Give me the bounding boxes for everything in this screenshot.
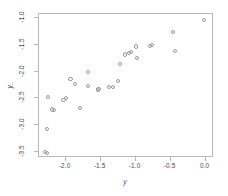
y-tick-mark (34, 71, 38, 72)
data-point (118, 62, 122, 66)
data-point (96, 87, 100, 91)
y-tick-mark (34, 97, 38, 98)
x-tick-label: -2.0 (59, 162, 70, 169)
data-point (202, 18, 206, 22)
plot-frame (38, 13, 213, 157)
data-point (52, 108, 56, 112)
y-tick-mark (34, 44, 38, 45)
y-tick-mark (34, 17, 38, 18)
data-point (116, 79, 120, 83)
y-tick-label: -1.0 (18, 12, 25, 23)
data-point (64, 96, 68, 100)
x-tick-mark (135, 157, 136, 161)
data-point (111, 85, 115, 89)
scatter-plot-figure: -2.0-1.5-1.0-0.50.0 -1.0-1.5-2.0-2.5-3.0… (0, 0, 228, 196)
x-tick-label: 0.0 (200, 162, 209, 169)
y-axis-label: y_ (6, 81, 13, 88)
y-tick-label: -1.5 (18, 38, 25, 49)
data-point (68, 77, 72, 81)
data-point (135, 56, 139, 60)
data-point (86, 70, 90, 74)
data-points-layer (39, 14, 212, 156)
x-tick-mark (170, 157, 171, 161)
data-point (86, 84, 90, 88)
y-tick-mark (34, 124, 38, 125)
data-point (73, 82, 77, 86)
x-tick-mark (205, 157, 206, 161)
data-point (45, 127, 49, 131)
x-axis-label: y (123, 178, 126, 185)
data-point (173, 49, 177, 53)
data-point (134, 44, 138, 48)
y-tick-label: -2.5 (18, 92, 25, 103)
data-point (78, 106, 82, 110)
data-point (171, 30, 175, 34)
x-tick-label: -1.0 (129, 162, 140, 169)
data-point (45, 151, 49, 155)
data-point (150, 43, 154, 47)
x-tick-mark (100, 157, 101, 161)
x-tick-label: -0.5 (164, 162, 175, 169)
y-tick-mark (34, 151, 38, 152)
y-tick-label: -3.5 (18, 145, 25, 156)
y-tick-label: -3.0 (18, 118, 25, 129)
data-point (129, 50, 133, 54)
y-tick-label: -2.0 (18, 65, 25, 76)
x-tick-mark (65, 157, 66, 161)
x-tick-label: -1.5 (94, 162, 105, 169)
data-point (46, 95, 50, 99)
